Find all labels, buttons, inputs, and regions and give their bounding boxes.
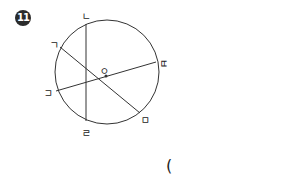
chord-nieun-mieum (60, 47, 140, 113)
label-bottom: ㄹ (82, 127, 91, 138)
label-lower-right: ㅁ (141, 114, 150, 125)
label-left: ㄷ (44, 87, 53, 98)
answer-paren: ( (166, 156, 172, 175)
label-upper-left: ㄴ (50, 39, 59, 50)
label-right: ㅂ (158, 59, 169, 68)
center-label: ㅇ (100, 65, 109, 76)
label-top: ㄱ (82, 10, 91, 21)
circle-diagram: ㅇ ㄱ ㄴ ㄷ ㄹ ㅁ ㅂ (0, 0, 296, 184)
